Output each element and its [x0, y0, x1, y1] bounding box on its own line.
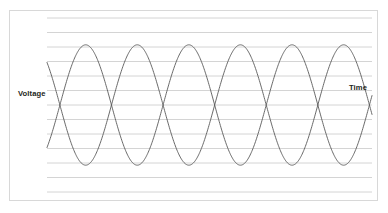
x-axis-label: Time — [349, 83, 367, 92]
waveform-figure: Voltage Time — [0, 0, 388, 213]
gridline-group — [47, 18, 372, 192]
waveform-plot — [0, 0, 388, 213]
y-axis-label: Voltage — [18, 89, 46, 98]
